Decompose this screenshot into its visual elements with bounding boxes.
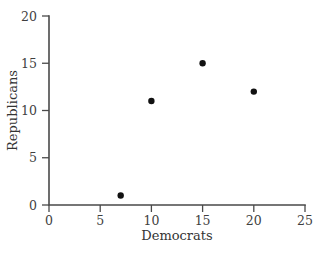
x-tick-label-25: 25 (297, 213, 313, 228)
x-tick-label-0: 0 (45, 213, 53, 228)
x-tick-label-10: 10 (143, 213, 159, 228)
x-tick-label-15: 15 (195, 213, 211, 228)
data-point (199, 60, 205, 66)
y-tick-label-10: 10 (21, 103, 37, 118)
y-tick-label-20: 20 (21, 9, 37, 24)
axis-lines (49, 16, 305, 205)
x-axis-tick-labels: 0 5 10 15 20 25 (45, 213, 313, 228)
data-point (117, 192, 123, 198)
x-axis-title: Democrats (141, 228, 212, 243)
data-point (148, 98, 154, 104)
x-tick-label-20: 20 (246, 213, 262, 228)
scatter-plot-figure: 0 5 10 15 20 0 5 10 15 20 25 Democrats R… (0, 0, 326, 253)
y-tick-label-0: 0 (29, 198, 37, 213)
x-axis-ticks (49, 205, 305, 212)
y-tick-label-5: 5 (29, 150, 37, 165)
axes-group (49, 16, 305, 205)
data-points-group (117, 60, 257, 199)
data-point (251, 88, 257, 94)
y-axis-tick-labels: 0 5 10 15 20 (21, 9, 37, 213)
plot-canvas: 0 5 10 15 20 0 5 10 15 20 25 Democrats R… (0, 0, 326, 253)
y-tick-label-15: 15 (21, 56, 37, 71)
y-axis-ticks (42, 16, 49, 205)
y-axis-title: Republicans (5, 70, 20, 151)
x-tick-label-5: 5 (96, 213, 104, 228)
